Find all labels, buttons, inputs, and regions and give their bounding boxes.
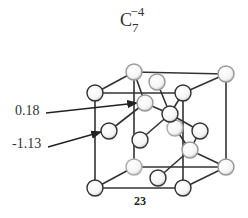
crystal-lattice-diagram [0, 0, 248, 218]
arrow-0-18 [46, 103, 137, 113]
arrow-minus-1-13 [48, 132, 101, 147]
figure-caption: 23 [134, 194, 146, 209]
pointer-arrows [46, 103, 137, 147]
atoms [87, 64, 234, 196]
